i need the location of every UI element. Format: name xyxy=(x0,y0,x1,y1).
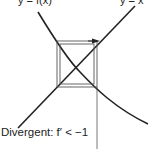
line-label: y = x xyxy=(120,0,144,6)
function-curve xyxy=(38,12,148,124)
identity-line xyxy=(18,6,135,128)
curve-label: y = f(x) xyxy=(18,0,52,6)
diagram-caption: Divergent: f′ < −1 xyxy=(1,127,88,139)
